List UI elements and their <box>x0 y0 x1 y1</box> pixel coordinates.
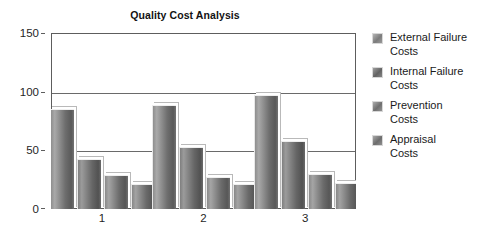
bar <box>206 177 230 209</box>
chart-container: Quality Cost Analysis 050100150 123 Exte… <box>0 0 499 240</box>
x-axis: 123 <box>51 212 356 232</box>
x-axis-tick-label: 1 <box>99 212 105 224</box>
y-axis-tick-mark <box>41 33 45 34</box>
legend-label: Appraisal Costs <box>390 133 436 160</box>
legend-label: Internal Failure Costs <box>390 65 463 92</box>
chart-legend: External Failure CostsInternal Failure C… <box>372 31 496 167</box>
bar <box>51 109 74 209</box>
bar <box>254 95 278 209</box>
legend-swatch-icon <box>372 67 383 78</box>
bar <box>308 174 332 209</box>
chart-title: Quality Cost Analysis <box>0 9 370 21</box>
legend-label: Prevention Costs <box>390 99 443 126</box>
legend-item: Prevention Costs <box>372 99 496 126</box>
y-axis-tick-mark <box>41 92 45 93</box>
bar <box>104 175 128 209</box>
y-axis-tick-label: 50 <box>26 144 39 156</box>
bars-layer <box>51 33 356 209</box>
legend-swatch-icon <box>372 101 383 112</box>
x-axis-tick-label: 2 <box>200 212 206 224</box>
y-axis-tick-label: 150 <box>20 27 39 39</box>
legend-swatch-icon <box>372 33 383 44</box>
bar <box>77 159 101 209</box>
x-axis-tick-label: 3 <box>302 212 308 224</box>
y-axis-tick-label: 100 <box>20 86 39 98</box>
y-axis-tick-label: 0 <box>33 203 39 215</box>
bar <box>179 147 203 209</box>
legend-item: External Failure Costs <box>372 31 496 58</box>
bar <box>335 183 356 209</box>
bar <box>281 141 305 209</box>
legend-item: Internal Failure Costs <box>372 65 496 92</box>
y-axis-tick-mark <box>41 208 45 209</box>
legend-swatch-icon <box>372 135 383 146</box>
legend-label: External Failure Costs <box>390 31 467 58</box>
bar <box>152 105 176 209</box>
y-axis: 050100150 <box>0 33 45 209</box>
y-axis-tick-mark <box>41 150 45 151</box>
legend-item: Appraisal Costs <box>372 133 496 160</box>
